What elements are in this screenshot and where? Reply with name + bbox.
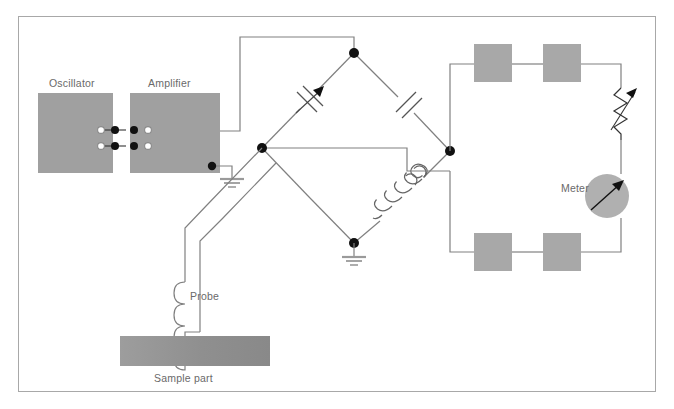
ground-icon-amplifier [220, 179, 244, 187]
probe-label: Probe [190, 290, 219, 302]
fixed-capacitor-icon [396, 92, 422, 118]
diagram-canvas: Oscillator Amplifier Probe Sample part M… [0, 0, 674, 409]
circuit-schematic [0, 0, 674, 409]
bridge-coil-icon [373, 164, 427, 218]
resistor-block-top-right [543, 44, 581, 82]
resistor-block-top-left [474, 44, 512, 82]
bridge-node-top [349, 48, 359, 58]
sample-part-label: Sample part [154, 372, 213, 384]
meter-label: Meter [561, 182, 589, 194]
bridge-branch-top-right [354, 53, 450, 151]
bridge-detector-link [262, 148, 450, 171]
variable-capacitor-arrow [296, 86, 324, 113]
resistor-block-bottom-left [474, 233, 512, 271]
resistor-block-bottom-right [543, 233, 581, 271]
amplifier-output-wire [220, 37, 354, 131]
ground-icon-bridge [342, 257, 366, 265]
meter-loop-wires [450, 64, 621, 252]
bridge-branch-bottom-left [262, 148, 354, 243]
probe-cable [185, 148, 276, 332]
bridge-branch-top-left [262, 53, 354, 148]
amplifier-block [130, 93, 220, 173]
oscillator-label: Oscillator [49, 77, 95, 89]
amplifier-ground-node [208, 162, 216, 170]
amplifier-label: Amplifier [148, 77, 191, 89]
sample-part-block [120, 336, 270, 366]
